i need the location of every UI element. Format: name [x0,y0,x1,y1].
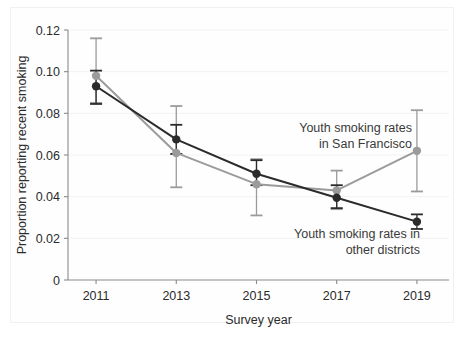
x-tick-label-3: 2017 [323,289,351,303]
x-tick-label-2: 2015 [243,289,271,303]
data-point-1-4 [413,217,421,225]
data-point-1-0 [92,82,100,90]
sf-annotation: Youth smoking ratesin San Francisco [299,121,412,151]
x-tick-label-4: 2019 [403,289,431,303]
data-point-0-3 [333,186,341,194]
y-tick-label-5: 0.10 [36,65,60,79]
y-axis-title: Proportion reporting recent smoking [15,56,29,255]
y-tick-label-2: 0.04 [36,190,60,204]
y-tick-label-1: 0.02 [36,232,60,246]
data-point-0-2 [252,180,260,188]
y-tick-label-3: 0.06 [36,149,60,163]
x-tick-label-1: 2013 [162,289,190,303]
plot-area: 00.020.040.060.080.100.12201120132015201… [0,0,465,343]
data-point-1-3 [333,194,341,202]
data-point-0-1 [172,149,180,157]
data-point-1-2 [252,170,260,178]
y-tick-label-6: 0.12 [36,24,60,38]
y-tick-label-0: 0 [53,274,60,288]
data-point-1-1 [172,135,180,143]
figure-container: 00.020.040.060.080.100.12201120132015201… [0,0,465,343]
data-point-0-4 [413,147,421,155]
other-annotation: Youth smoking rates inother districts [294,227,420,257]
other-annotation-line-2: other districts [346,243,420,257]
sf-annotation-line-1: Youth smoking rates [299,121,412,135]
x-axis-title: Survey year [225,313,292,327]
y-tick-label-4: 0.08 [36,107,60,121]
x-tick-label-0: 2011 [83,289,110,303]
line-chart: 00.020.040.060.080.100.12201120132015201… [0,0,465,343]
other-annotation-line-1: Youth smoking rates in [294,227,420,241]
data-point-0-0 [92,72,100,80]
sf-annotation-line-2: in San Francisco [319,137,412,151]
